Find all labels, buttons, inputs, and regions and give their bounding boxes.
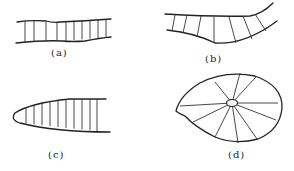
panel-b-top-wall (165, 3, 273, 16)
panel-b-line (229, 17, 236, 43)
panel-b: (b) (165, 3, 277, 64)
panel-b-line (183, 15, 187, 33)
panel-d-outer-boundary (176, 74, 282, 141)
panel-d-ray (232, 103, 238, 143)
panel-b-label: (b) (205, 53, 222, 64)
panel-b-line (197, 16, 201, 37)
panel-d-center-hub (227, 100, 238, 107)
panel-d-label: (d) (228, 149, 245, 160)
panel-c-parabola (13, 99, 110, 132)
panel-a-bottom-wall (16, 37, 111, 43)
panel-d-ray (232, 103, 257, 139)
panel-d-radial-lines (180, 73, 278, 143)
panel-d: (d) (176, 73, 282, 160)
panel-d-ray (180, 103, 232, 106)
panel-b-line (243, 16, 252, 39)
panel-b-cross-lines (172, 14, 266, 43)
panel-a: (a) (16, 19, 111, 58)
diagram-canvas: (a) (b) (c) (d) (0, 0, 294, 171)
panel-c-label: (c) (48, 149, 64, 160)
panel-b-line (255, 14, 266, 31)
panel-a-label: (a) (51, 47, 68, 58)
panel-d-ray (215, 103, 232, 137)
panel-d-ray (193, 103, 232, 122)
panel-a-top-wall (17, 19, 111, 22)
panel-d-ray (232, 103, 276, 120)
panel-c: (c) (13, 99, 110, 160)
panel-b-line (172, 15, 175, 31)
